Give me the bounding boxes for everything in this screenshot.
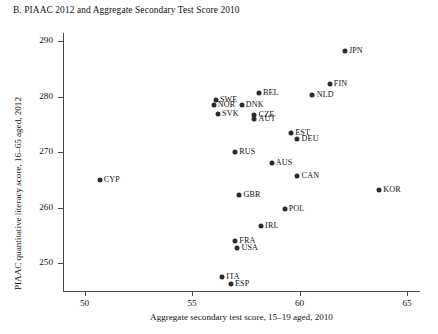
data-point-label: NOR [218, 99, 236, 108]
x-tick-label: 50 [80, 298, 89, 308]
x-axis-line [63, 291, 420, 292]
data-point[interactable] [342, 49, 347, 54]
data-point[interactable] [211, 102, 216, 107]
data-point[interactable] [295, 173, 300, 178]
data-point-label: USA [241, 242, 258, 251]
data-point-label: JPN [349, 46, 363, 55]
data-point[interactable] [377, 188, 382, 193]
data-point[interactable] [310, 93, 315, 98]
x-axis-label: Aggregate secondary test score, 15–19 ag… [63, 312, 420, 322]
data-point-label: DEU [302, 133, 319, 142]
data-point-label: SVK [222, 109, 239, 118]
data-point[interactable] [256, 91, 261, 96]
data-point[interactable] [220, 274, 225, 279]
data-point-label: POL [289, 203, 305, 212]
y-tick-label: 280 [0, 90, 53, 100]
data-point[interactable] [233, 150, 238, 155]
x-tick-mark [85, 291, 86, 296]
data-point-label: RUS [239, 147, 255, 156]
x-tick-mark [407, 291, 408, 296]
data-point[interactable] [228, 282, 233, 287]
chart-panel: B. PIAAC 2012 and Aggregate Secondary Te… [0, 0, 438, 334]
data-point-label: NLD [317, 90, 334, 99]
data-point[interactable] [327, 82, 332, 87]
data-point-label: KOR [383, 185, 401, 194]
data-point[interactable] [295, 136, 300, 141]
data-point[interactable] [252, 117, 257, 122]
x-tick-label: 55 [187, 298, 196, 308]
data-point-label: GBR [244, 190, 261, 199]
data-point-label: CYP [104, 175, 120, 184]
scatter-plot-area: JPNFINNLDBELSWENORDNKSVKCZEAUTESTDEURUSC… [63, 33, 420, 291]
chart-title: B. PIAAC 2012 and Aggregate Secondary Te… [13, 5, 240, 15]
data-point[interactable] [215, 112, 220, 117]
data-point[interactable] [233, 238, 238, 243]
data-point[interactable] [288, 130, 293, 135]
data-point[interactable] [282, 206, 287, 211]
data-point-label: ESP [235, 279, 249, 288]
data-point[interactable] [97, 178, 102, 183]
data-point-label: DNK [246, 100, 264, 109]
y-tick-label: 270 [0, 146, 53, 156]
data-point-label: AUT [259, 114, 276, 123]
data-point[interactable] [239, 103, 244, 108]
y-tick-label: 260 [0, 201, 53, 211]
data-point-label: IRL [265, 220, 279, 229]
data-point[interactable] [269, 160, 274, 165]
x-tick-mark [300, 291, 301, 296]
data-point-label: FIN [334, 79, 348, 88]
x-tick-label: 60 [295, 298, 304, 308]
data-point-label: AUS [276, 157, 293, 166]
data-point[interactable] [237, 193, 242, 198]
x-tick-mark [192, 291, 193, 296]
y-tick-label: 290 [0, 35, 53, 45]
data-point-label: CAN [302, 170, 320, 179]
data-point[interactable] [235, 245, 240, 250]
data-point-label: BEL [263, 88, 279, 97]
data-point[interactable] [258, 223, 263, 228]
y-tick-label: 250 [0, 257, 53, 267]
x-tick-label: 65 [403, 298, 412, 308]
